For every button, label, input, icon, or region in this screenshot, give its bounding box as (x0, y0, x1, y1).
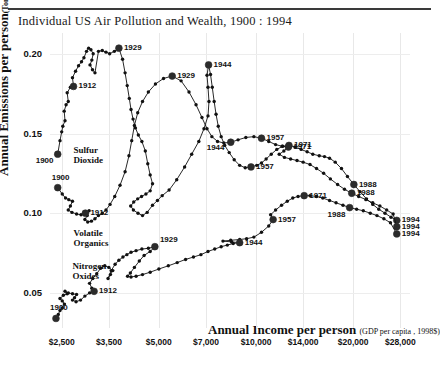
year-marker-1957 (270, 216, 277, 223)
data-point (64, 196, 67, 199)
data-point (118, 184, 121, 187)
year-label-1971: 1971 (309, 191, 327, 200)
data-point (113, 50, 116, 53)
year-label-1912: 1912 (99, 286, 117, 295)
data-point (364, 198, 367, 201)
series-label-volatile-organics: VolatileOrganics (74, 228, 109, 248)
year-marker-1944 (236, 239, 243, 246)
year-marker-1971 (301, 192, 308, 199)
data-point (207, 100, 210, 103)
data-point (280, 145, 283, 148)
data-point (219, 245, 222, 248)
x-tick-28000: $28,000 (385, 337, 416, 347)
year-label-1900: 1900 (50, 303, 68, 312)
data-point (104, 50, 107, 53)
series-line (58, 48, 397, 220)
data-point (129, 204, 132, 207)
data-point (160, 194, 163, 197)
data-point (301, 160, 304, 163)
data-point (264, 157, 267, 160)
data-point (91, 68, 94, 71)
data-point (378, 204, 381, 207)
data-point (274, 143, 277, 146)
data-point (233, 158, 236, 161)
year-label-1988: 1988 (359, 180, 377, 189)
data-point (133, 124, 136, 127)
data-point (244, 136, 247, 139)
data-point (199, 253, 202, 256)
data-point (280, 204, 283, 207)
data-point (70, 211, 73, 214)
data-point (80, 60, 83, 63)
data-point (192, 255, 195, 258)
x-tick-5000: $5,000 (146, 337, 172, 347)
data-point (175, 178, 178, 181)
data-point (167, 188, 170, 191)
data-point (126, 274, 129, 277)
data-point (90, 219, 93, 222)
data-point (148, 270, 151, 273)
data-point (391, 212, 394, 215)
data-point (133, 266, 136, 269)
data-point (340, 167, 343, 170)
data-point (275, 148, 278, 151)
data-point (282, 149, 285, 152)
data-point (311, 152, 314, 155)
year-marker-1994 (393, 231, 400, 238)
chart-title: Individual US Air Pollution and Wealth, … (18, 14, 292, 29)
data-point (267, 224, 270, 227)
data-point (101, 49, 104, 52)
year-label-1900: 1900 (36, 156, 54, 165)
data-point (184, 258, 187, 261)
data-point (148, 189, 151, 192)
data-point (147, 90, 150, 93)
data-point (200, 116, 203, 119)
year-label-1988: 1988 (328, 210, 346, 219)
data-point (238, 164, 241, 167)
plot-area: 19001912192919441957197119881994SulfurDi… (50, 33, 410, 328)
year-marker-1929 (151, 243, 158, 250)
data-point (77, 64, 80, 67)
data-point (58, 297, 61, 300)
data-point (162, 77, 165, 80)
year-label-1971: 1971 (293, 142, 311, 151)
year-label-1988: 1988 (357, 188, 375, 197)
data-point (75, 212, 78, 215)
year-label-1929: 1929 (124, 43, 142, 52)
data-point (141, 273, 144, 276)
data-point (97, 50, 100, 53)
data-point (323, 155, 326, 158)
data-point (138, 259, 141, 262)
data-point (107, 266, 110, 269)
data-point (106, 277, 109, 280)
y-tick-0.10: 0.10 (8, 207, 42, 218)
data-point (61, 125, 64, 128)
data-point (130, 139, 133, 142)
series-label-nitrogen-oxides: NitrogenOxides (73, 261, 107, 281)
x-tick-20000: $20,000 (338, 337, 369, 347)
data-point (137, 133, 140, 136)
series-sulfur-dioxide (54, 45, 400, 224)
year-marker-1988 (348, 190, 355, 197)
data-point (187, 90, 190, 93)
data-point (221, 239, 224, 242)
data-point (389, 215, 392, 218)
data-point (334, 160, 337, 163)
data-point (75, 293, 78, 296)
data-point (260, 231, 263, 234)
year-label-1994: 1994 (402, 229, 420, 238)
data-point (214, 113, 217, 116)
data-point (202, 127, 205, 130)
data-point (65, 91, 68, 94)
data-point (64, 103, 67, 106)
data-point (147, 247, 150, 250)
data-point (93, 71, 96, 74)
year-marker-1988 (350, 181, 357, 188)
data-point (286, 200, 289, 203)
data-point (291, 196, 294, 199)
year-label-1944: 1944 (214, 60, 232, 69)
data-point (329, 177, 332, 180)
data-point (212, 100, 215, 103)
year-marker-1929 (169, 73, 176, 80)
data-point (140, 140, 143, 143)
